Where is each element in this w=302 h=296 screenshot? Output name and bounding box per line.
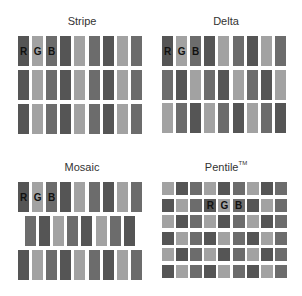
subpixel-label: B: [192, 46, 199, 57]
subpixel-b: [275, 232, 287, 245]
subpixel-g: [162, 215, 174, 228]
subpixel-b: [190, 232, 202, 245]
subpixel-g: G: [32, 36, 43, 66]
subpixel-g: [261, 265, 273, 278]
subpixel-g: [74, 250, 85, 280]
subpixel-g: [233, 70, 244, 100]
subpixel-g: [176, 199, 188, 212]
subpixel-g: G: [218, 199, 230, 212]
subpixel-r: R: [18, 36, 29, 66]
subpixel-r: [261, 182, 273, 195]
subpixel-g: [218, 232, 230, 245]
subpixel-g: [218, 36, 229, 66]
subpixel-g: [117, 36, 128, 66]
subpixel-r: [103, 250, 114, 280]
subpixel-r: [60, 182, 71, 212]
subpixel-r: [18, 70, 29, 100]
subpixel-r: [18, 250, 29, 280]
pentile-title-text: Pentile: [205, 161, 239, 173]
subpixel-r: [176, 70, 187, 100]
subpixel-r: [176, 215, 188, 228]
subpixel-g: [96, 216, 107, 246]
subpixel-r: [162, 232, 174, 245]
subpixel-g: [32, 250, 43, 280]
stripe-title: Stripe: [12, 15, 152, 27]
subpixel-g: [74, 36, 85, 66]
subpixel-b: B: [46, 182, 57, 212]
subpixel-b: [46, 104, 57, 134]
subpixel-r: R: [204, 199, 216, 212]
subpixel-b: [233, 182, 245, 195]
subpixel-r: [103, 36, 114, 66]
subpixel-b: B: [190, 36, 201, 66]
subpixel-r: R: [18, 182, 29, 212]
subpixel-b: [190, 199, 202, 212]
subpixel-r: [190, 103, 201, 133]
subpixel-b: [89, 182, 100, 212]
subpixel-g: G: [176, 36, 187, 66]
subpixel-r: [162, 199, 174, 212]
subpixel-r: [204, 36, 215, 66]
subpixel-label: R: [164, 46, 171, 57]
subpixel-g: [247, 215, 259, 228]
subpixel-r: [261, 248, 273, 261]
subpixel-g: [261, 232, 273, 245]
subpixel-b: [190, 248, 202, 261]
subpixel-b: B: [233, 199, 245, 212]
subpixel-r: R: [162, 36, 173, 66]
subpixel-g: [117, 250, 128, 280]
subpixel-label: G: [221, 200, 229, 211]
subpixel-r: [162, 265, 174, 278]
delta-title: Delta: [156, 15, 296, 27]
subpixel-r: [103, 104, 114, 134]
subpixel-g: [53, 216, 64, 246]
subpixel-b: [176, 103, 187, 133]
trademark-mark: TM: [238, 160, 247, 166]
subpixel-g: [74, 182, 85, 212]
subpixel-g: [190, 70, 201, 100]
subpixel-g: [247, 248, 259, 261]
subpixel-b: [190, 215, 202, 228]
subpixel-g: G: [32, 182, 43, 212]
subpixel-g: [204, 103, 215, 133]
subpixel-r: [60, 70, 71, 100]
subpixel-g: [247, 182, 259, 195]
subpixel-g: [204, 248, 216, 261]
subpixel-label: R: [20, 192, 27, 203]
subpixel-r: [247, 232, 259, 245]
subpixel-b: [131, 250, 142, 280]
subpixel-r: [60, 250, 71, 280]
subpixel-b: [204, 70, 215, 100]
subpixel-b: [131, 70, 142, 100]
subpixel-g: [204, 215, 216, 228]
pentile-title: PentileTM: [156, 161, 296, 173]
subpixel-g: [162, 248, 174, 261]
subpixel-b: [275, 215, 287, 228]
subpixel-g: [32, 104, 43, 134]
subpixel-b: [89, 70, 100, 100]
subpixel-b: [275, 36, 286, 66]
subpixel-b: [190, 182, 202, 195]
subpixel-r: [218, 182, 230, 195]
subpixel-r: [81, 216, 92, 246]
subpixel-g: [275, 70, 286, 100]
subpixel-r: [103, 182, 114, 212]
subpixel-b: [261, 103, 272, 133]
subpixel-g: [247, 103, 258, 133]
subpixel-b: [131, 182, 142, 212]
subpixel-r: [204, 232, 216, 245]
subpixel-g: [162, 103, 173, 133]
subpixel-r: [247, 199, 259, 212]
subpixel-b: [275, 265, 287, 278]
subpixel-r: [218, 215, 230, 228]
subpixel-label: G: [34, 192, 42, 203]
subpixel-r: [261, 70, 272, 100]
subpixel-b: [46, 250, 57, 280]
subpixel-b: [67, 216, 78, 246]
subpixel-b: [131, 104, 142, 134]
subpixel-r: [18, 104, 29, 134]
subpixel-g: [218, 265, 230, 278]
subpixel-g: [117, 70, 128, 100]
subpixel-label: B: [235, 200, 242, 211]
subpixel-r: [233, 103, 244, 133]
